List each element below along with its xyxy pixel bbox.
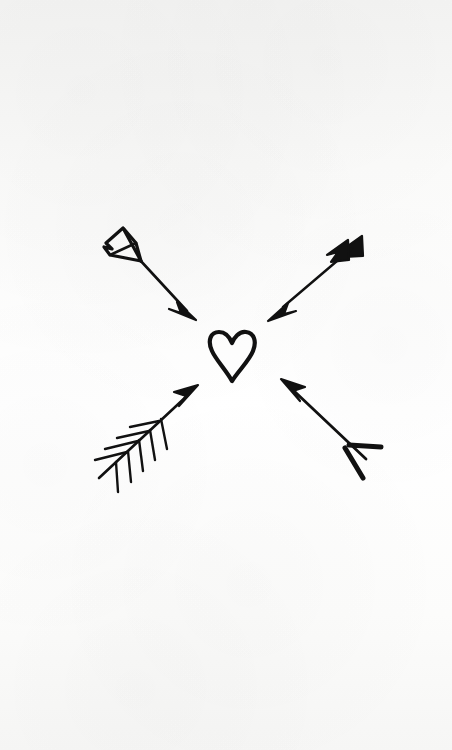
arrow-bottom-right-shaft <box>293 390 366 459</box>
arrows-heart-illustration <box>0 0 452 750</box>
arrow-bottom-left-shaft <box>99 394 189 478</box>
heart <box>210 332 255 381</box>
arrow-bottom-left-barb-lower-4 <box>128 451 131 482</box>
artboard <box>0 0 452 750</box>
arrow-bottom-left-barb-lower-1 <box>161 419 167 449</box>
arrow-bottom-left-barb-lower-5 <box>116 462 118 492</box>
arrow-top-right-shaft <box>283 261 337 307</box>
arrow-top-left <box>104 228 196 320</box>
arrow-top-left-fletching-quill <box>110 243 136 255</box>
arrow-bottom-right <box>281 379 381 478</box>
heart-outline <box>210 332 255 381</box>
arrow-top-right <box>268 236 363 321</box>
arrow-bottom-left-barb-lower-2 <box>150 430 155 460</box>
arrow-top-right-fletching-inner <box>327 240 349 262</box>
arrow-bottom-left-barb-lower-3 <box>139 440 143 471</box>
arrow-bottom-right-nock-horizontal <box>349 445 381 447</box>
arrow-top-right-head <box>268 303 296 321</box>
arrow-bottom-left <box>95 385 198 492</box>
arrow-bottom-left-head <box>174 385 198 406</box>
